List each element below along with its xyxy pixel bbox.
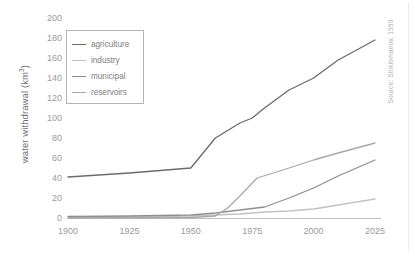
source-credit: Source: Shiklomanov, 1999	[387, 2, 394, 122]
plot-area	[0, 0, 415, 256]
legend-label-municipal: municipal	[91, 72, 126, 81]
legend-swatch-reservoirs	[72, 92, 86, 93]
legend-item-agriculture[interactable]: agriculture	[72, 36, 143, 52]
legend-swatch-industry	[72, 60, 86, 61]
legend-label-reservoirs: reservoirs	[91, 88, 127, 97]
water-withdrawal-line-chart: water withdrawal (km3) 02040608010012014…	[0, 0, 415, 256]
series-line-municipal	[68, 160, 375, 217]
right-margin-rule	[408, 4, 409, 252]
legend-label-agriculture: agriculture	[91, 40, 129, 49]
legend-item-industry[interactable]: industry	[72, 52, 143, 68]
legend-swatch-agriculture	[72, 44, 86, 45]
legend-swatch-municipal	[72, 76, 86, 77]
legend-label-industry: industry	[91, 56, 120, 65]
series-line-industry	[68, 199, 375, 218]
legend: agricultureindustrymunicipalreservoirs	[66, 30, 144, 104]
legend-item-municipal[interactable]: municipal	[72, 68, 143, 84]
legend-item-reservoirs[interactable]: reservoirs	[72, 84, 143, 100]
